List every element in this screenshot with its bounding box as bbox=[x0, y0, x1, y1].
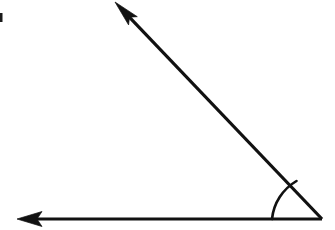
edge-artifact-mark bbox=[0, 13, 3, 22]
figure-background bbox=[0, 0, 335, 230]
angle-figure bbox=[0, 0, 335, 230]
angle-diagram-canvas bbox=[0, 0, 335, 230]
